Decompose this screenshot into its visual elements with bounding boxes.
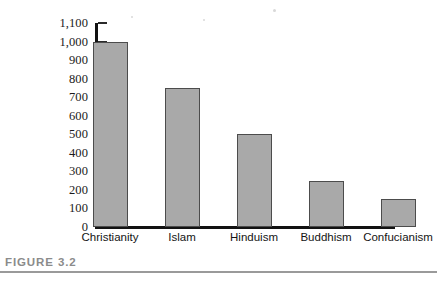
y-axis-tick-label: 800: [36, 73, 88, 86]
y-axis-tick-label: 1,000: [36, 36, 88, 49]
y-axis-tick-label: 700: [36, 91, 88, 104]
y-axis-tick-label: 1,100: [36, 17, 88, 30]
figure-container: 1,1001,0009008007006005004003002001000 C…: [0, 0, 437, 281]
y-axis-tick-label: 900: [36, 54, 88, 67]
y-axis-tick-label: 400: [36, 147, 88, 160]
y-axis-tick-label: 200: [36, 184, 88, 197]
figure-caption: FIGURE 3.2: [5, 257, 77, 269]
x-axis-category-label: Confucianism: [338, 232, 437, 244]
bar: [237, 134, 272, 227]
bar-chart-plot-area: 1,1001,0009008007006005004003002001000 C…: [0, 0, 437, 255]
figure-caption-rule: [0, 271, 437, 273]
bar: [381, 199, 416, 227]
bar: [309, 181, 344, 227]
y-axis-tick-label: 300: [36, 165, 88, 178]
y-axis-tick-label: 500: [36, 128, 88, 141]
bar: [165, 88, 200, 227]
y-axis-tick-label: 100: [36, 202, 88, 215]
y-axis-tick-label: 600: [36, 110, 88, 123]
y-axis-tick: [98, 22, 107, 24]
bar: [93, 42, 128, 227]
